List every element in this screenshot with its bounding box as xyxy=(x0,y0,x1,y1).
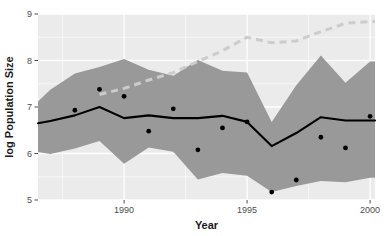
population-size-chart: 199019952000 56789 Year log Population S… xyxy=(0,0,387,236)
y-tick-label: 6 xyxy=(27,149,32,159)
x-tick-label: 1995 xyxy=(237,205,257,215)
y-tick-label: 5 xyxy=(27,195,32,205)
x-tick-label: 2000 xyxy=(360,205,380,215)
y-tick-label: 9 xyxy=(27,9,32,19)
chart-figure: 199019952000 56789 Year log Population S… xyxy=(0,0,387,236)
y-tick-label: 8 xyxy=(27,56,32,66)
x-tick-label: 1990 xyxy=(114,205,134,215)
y-axis-title: log Population Size xyxy=(3,56,15,157)
y-tick-label: 7 xyxy=(27,102,32,112)
x-axis-title: Year xyxy=(195,219,219,231)
